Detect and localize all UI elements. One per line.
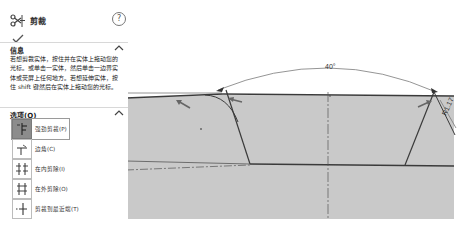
sketch-point[interactable] <box>329 95 331 97</box>
angle-dimension-arc[interactable] <box>218 68 436 92</box>
help-button[interactable]: ? <box>112 12 126 26</box>
trim-away-outside-icon <box>12 179 32 199</box>
trim-options-list: 强劲剪裁(P) 边角(C) <box>12 119 128 219</box>
sketch-body-fill <box>126 95 454 219</box>
chevron-up-icon <box>114 44 124 51</box>
angle-arrow-left-icon <box>216 87 224 92</box>
option-label: 强劲剪裁(P) <box>35 125 67 133</box>
sketch-point[interactable] <box>200 128 202 130</box>
corner-trim-icon <box>12 139 32 159</box>
property-manager-panel: 剪裁 ? 信息 若想剪裁实体，按住并在实体上拖动您的光标。或单击一实体，然后单击… <box>0 0 128 229</box>
option-label: 剪裁到最近端(T) <box>35 205 79 213</box>
trim-away-inside-icon <box>12 159 32 179</box>
option-label: 边角(C) <box>35 145 55 153</box>
angle-arrow-right-icon <box>431 88 438 93</box>
power-trim-icon <box>12 119 32 139</box>
divider <box>0 107 128 108</box>
option-corner[interactable]: 边角(C) <box>12 139 128 159</box>
option-power-trim[interactable]: 强劲剪裁(P) <box>12 119 69 139</box>
panel-title-row: 剪裁 <box>10 12 46 28</box>
option-label: 在内剪除(I) <box>35 165 65 173</box>
option-label: 在外剪除(O) <box>35 185 68 193</box>
option-trim-away-inside[interactable]: 在内剪除(I) <box>12 159 128 179</box>
trim-to-closest-icon <box>12 199 32 219</box>
trim-entities-icon <box>10 13 26 27</box>
ok-button[interactable] <box>12 29 24 39</box>
option-trim-away-outside[interactable]: 在外剪除(O) <box>12 179 128 199</box>
chevron-up-icon <box>114 109 124 116</box>
panel-title: 剪裁 <box>30 15 46 26</box>
angle-dimension-text[interactable]: 40° <box>325 63 336 70</box>
divider <box>0 42 128 43</box>
option-trim-to-closest[interactable]: 剪裁到最近端(T) <box>12 199 128 219</box>
info-collapse-button[interactable] <box>114 44 124 52</box>
info-message: 若想剪裁实体，按住并在实体上拖动您的光标。或单击一实体，然后单击一边界实体或荧屏… <box>10 54 122 92</box>
options-collapse-button[interactable] <box>114 109 124 117</box>
